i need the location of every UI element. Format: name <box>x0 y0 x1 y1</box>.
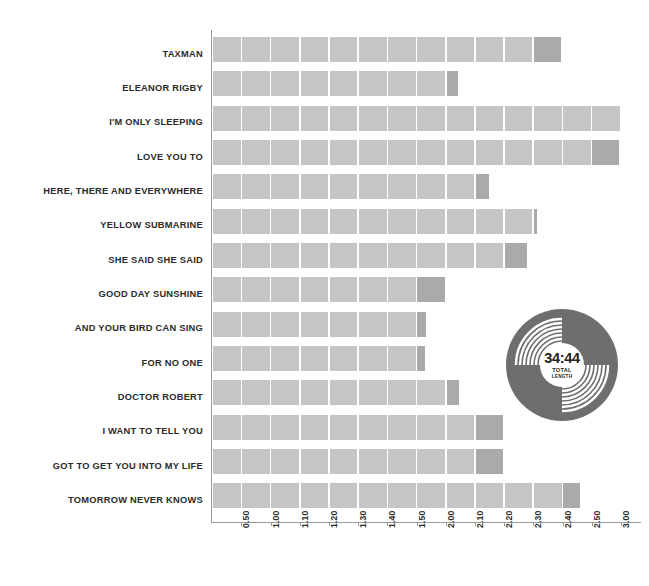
bar-segment <box>388 209 416 234</box>
bar-segment <box>417 71 445 96</box>
bar-segment <box>213 71 241 96</box>
track-label-row: AND YOUR BIRD CAN SING <box>0 312 203 346</box>
bar-segment <box>447 174 475 199</box>
x-axis-tick-label: 2.30 <box>533 510 543 528</box>
bar-segment <box>330 415 358 440</box>
bar-segment <box>359 209 387 234</box>
plot-area <box>211 30 649 526</box>
bar-segment <box>563 106 591 131</box>
track-duration-bar <box>213 243 529 268</box>
bar-segment <box>476 483 504 508</box>
bar-segment <box>301 140 329 165</box>
bar-segment <box>213 346 241 371</box>
bar-segment <box>534 483 562 508</box>
bar-segment <box>330 312 358 337</box>
track-duration-bar <box>213 209 539 234</box>
track-label: YELLOW SUBMARINE <box>100 213 203 238</box>
bar-segment-partial <box>447 71 459 96</box>
track-label-row: TAXMAN <box>0 37 203 71</box>
x-axis-tick-label: 1.10 <box>300 510 310 528</box>
bar-segment <box>242 380 270 405</box>
bar-segment <box>213 449 241 474</box>
bar-segment <box>359 71 387 96</box>
track-label: DOCTOR ROBERT <box>118 385 203 410</box>
bar-segment <box>505 37 533 62</box>
bar-segment <box>242 37 270 62</box>
track-label: I WANT TO TELL YOU <box>102 419 203 444</box>
bar-segment <box>271 37 299 62</box>
bar-segment <box>213 140 241 165</box>
bar-segment <box>271 106 299 131</box>
bar-segment-partial <box>563 483 580 508</box>
bar-segment <box>359 277 387 302</box>
track-duration-bar <box>213 312 427 337</box>
bar-segment <box>301 483 329 508</box>
bar-segment <box>301 209 329 234</box>
x-axis-tick-label: 3.00 <box>621 510 631 528</box>
bar-segment-partial <box>417 346 425 371</box>
bar-segment <box>476 106 504 131</box>
bar-segment <box>417 209 445 234</box>
album-track-length-chart: TAXMANELEANOR RIGBYI'M ONLY SLEEPINGLOVE… <box>0 0 649 586</box>
bar-segment <box>242 209 270 234</box>
track-duration-bar <box>213 380 461 405</box>
x-axis-tick-label: 1.40 <box>387 510 397 528</box>
bar-segment <box>417 106 445 131</box>
bar-segment <box>242 346 270 371</box>
bar-segment <box>359 346 387 371</box>
bar-segment <box>447 449 475 474</box>
bar-segment <box>242 106 270 131</box>
bar-segment <box>213 209 241 234</box>
bar-segment <box>505 140 533 165</box>
track-label: FOR NO ONE <box>142 351 203 376</box>
track-label-row: DOCTOR ROBERT <box>0 380 203 414</box>
bar-segment <box>359 449 387 474</box>
track-label: AND YOUR BIRD CAN SING <box>75 316 203 341</box>
bar-segment <box>388 243 416 268</box>
bar-segment <box>301 243 329 268</box>
bar-segment <box>271 312 299 337</box>
bar-segment-partial <box>505 243 527 268</box>
bar-segment <box>447 106 475 131</box>
bar-segment <box>271 483 299 508</box>
bar-segment <box>476 209 504 234</box>
bar-segment <box>242 415 270 440</box>
bar-segment-partial <box>476 449 504 474</box>
bar-segment <box>505 106 533 131</box>
x-axis-tick-label: 1.20 <box>329 510 339 528</box>
bar-segment <box>388 37 416 62</box>
bar-segment <box>505 483 533 508</box>
bar-segment <box>213 415 241 440</box>
bar-segment <box>359 37 387 62</box>
track-label: ELEANOR RIGBY <box>122 76 203 101</box>
bar-segment <box>388 106 416 131</box>
bar-segment <box>534 106 562 131</box>
total-length-record-badge: 34:44 TOTAL LENGTH <box>506 309 618 421</box>
bar-segment <box>417 243 445 268</box>
bar-segment <box>330 209 358 234</box>
bar-segment <box>417 37 445 62</box>
bar-segment <box>447 243 475 268</box>
track-label: GOT TO GET YOU INTO MY LIFE <box>53 454 203 479</box>
bar-segment <box>330 380 358 405</box>
bar-segment <box>359 140 387 165</box>
bar-segment <box>359 243 387 268</box>
x-axis-tick-label: 2.10 <box>475 510 485 528</box>
bar-segment <box>271 415 299 440</box>
bar-segment <box>301 380 329 405</box>
bar-segment <box>388 346 416 371</box>
bar-segment <box>388 415 416 440</box>
bar-row <box>213 277 649 311</box>
track-duration-bar <box>213 71 460 96</box>
bar-segment <box>534 140 562 165</box>
track-duration-bar <box>213 37 563 62</box>
bar-segment <box>301 106 329 131</box>
bar-segment <box>242 277 270 302</box>
bar-segment <box>213 106 241 131</box>
bar-segment <box>417 174 445 199</box>
bar-segment <box>388 277 416 302</box>
bar-segment-partial <box>534 209 537 234</box>
bar-row <box>213 449 649 483</box>
bar-segment <box>388 449 416 474</box>
bar-segment <box>242 71 270 96</box>
